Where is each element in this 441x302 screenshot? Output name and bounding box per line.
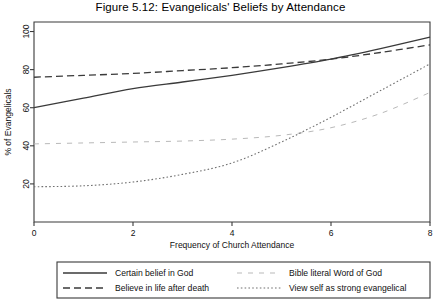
y-tick-label: 40: [21, 141, 31, 151]
series-line: [34, 64, 430, 187]
legend-label: Believe in life after death: [115, 283, 209, 293]
legend-label: Certain belief in God: [115, 268, 194, 278]
series-line: [34, 92, 430, 143]
legend-label: Bible literal Word of God: [289, 268, 382, 278]
figure-container: Figure 5.12: Evangelicals' Beliefs by At…: [0, 0, 441, 302]
x-axis-title: Frequency of Church Attendance: [170, 240, 295, 250]
y-tick-label: 100: [21, 24, 31, 38]
x-tick-label: 2: [131, 228, 136, 238]
plot-frame: [34, 22, 430, 222]
y-tick-label: 20: [21, 179, 31, 189]
x-tick-label: 6: [329, 228, 334, 238]
y-tick-label: 60: [21, 103, 31, 113]
legend-label: View self as strong evangelical: [289, 283, 406, 293]
chart-canvas: 2040608010002468% of EvangelicalsFrequen…: [0, 0, 441, 302]
x-tick-label: 4: [230, 228, 235, 238]
x-tick-label: 0: [32, 228, 37, 238]
x-tick-label: 8: [428, 228, 433, 238]
y-tick-label: 80: [21, 65, 31, 75]
series-line: [34, 45, 430, 77]
series-line: [34, 37, 430, 107]
y-axis-title: % of Evangelicals: [3, 88, 13, 155]
